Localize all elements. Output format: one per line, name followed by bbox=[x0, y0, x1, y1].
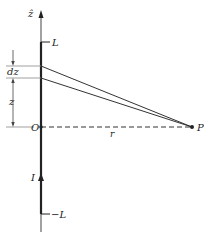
ray-lower bbox=[41, 78, 192, 127]
element-label: dz bbox=[7, 66, 19, 77]
bottom-end-label: −L bbox=[51, 209, 66, 220]
ray-upper bbox=[41, 66, 192, 127]
point-label: P bbox=[196, 122, 204, 133]
current-label: I bbox=[30, 172, 36, 183]
origin-label: O bbox=[31, 122, 39, 133]
wire-field-diagram: ẑ L dz z O I −L r P bbox=[0, 0, 204, 238]
z-arrow-down-icon bbox=[11, 122, 14, 127]
z-arrow-up-icon bbox=[11, 78, 14, 83]
origin-point bbox=[39, 125, 43, 129]
height-label: z bbox=[8, 96, 15, 107]
z-axis-arrow-icon bbox=[39, 10, 44, 18]
field-point bbox=[190, 125, 194, 129]
top-end-label: L bbox=[51, 37, 59, 48]
current-arrow-icon bbox=[38, 173, 44, 181]
distance-label: r bbox=[110, 129, 115, 139]
axis-label: ẑ bbox=[27, 8, 34, 19]
